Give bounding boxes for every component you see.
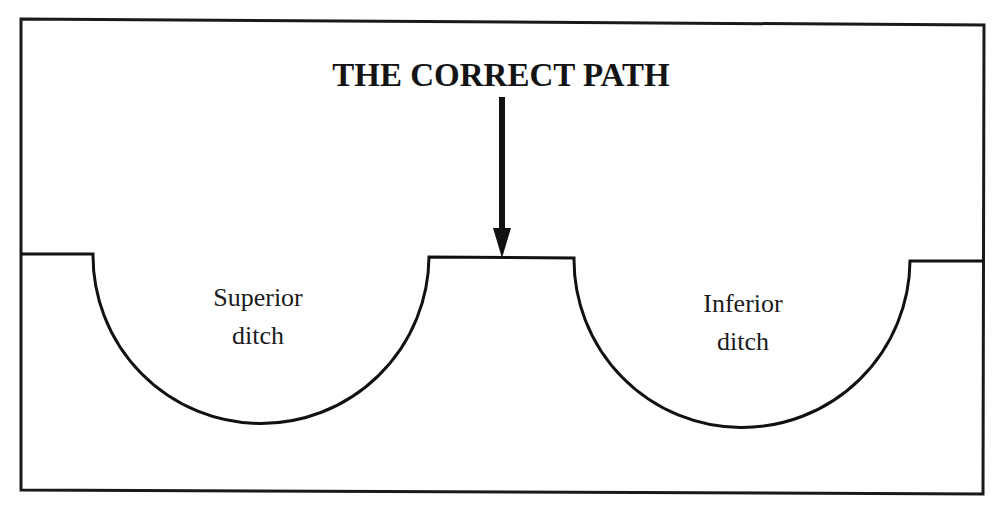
arrow-down-icon [493,97,511,258]
superior-ditch-label: Superior ditch [213,283,303,350]
inferior-ditch-label: Inferior ditch [703,289,783,356]
superior-ditch-label-line2: ditch [232,321,284,350]
inferior-ditch-label-line2: ditch [717,327,769,356]
arrow-head [493,228,511,258]
correct-path-diagram: THE CORRECT PATH Superior ditch Inferior… [0,0,997,510]
terrain-profile [21,254,983,428]
diagram-title: THE CORRECT PATH [332,57,670,93]
inferior-ditch-label-line1: Inferior [703,289,783,318]
arrow-shaft [499,97,505,231]
superior-ditch-label-line1: Superior [213,283,303,312]
